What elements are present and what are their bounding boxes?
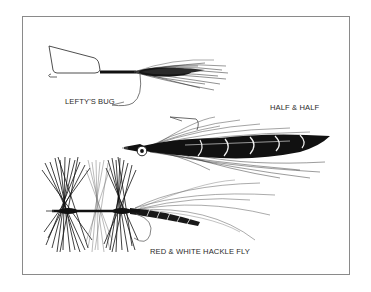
red-and-white-hackle-fly-drawing <box>42 157 275 252</box>
red-and-white-hackle-fly-label: RED & WHITE HACKLE FLY <box>150 247 250 256</box>
lefty-s-bug-label: LEFTY'S BUG <box>65 97 115 106</box>
half-and-half-label: HALF & HALF <box>270 103 319 112</box>
half-and-half-drawing <box>122 117 330 178</box>
